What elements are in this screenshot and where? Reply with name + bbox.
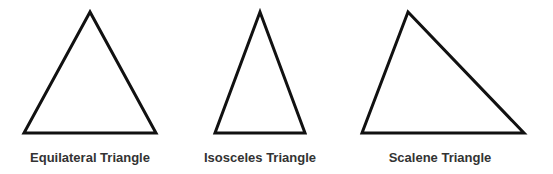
isosceles-triangle-shape (215, 12, 305, 133)
isosceles-triangle-label: Isosceles Triangle (204, 150, 316, 165)
scalene-triangle-label: Scalene Triangle (389, 150, 492, 165)
equilateral-triangle-label: Equilateral Triangle (30, 150, 150, 165)
equilateral-triangle-shape (24, 12, 156, 133)
triangles-diagram (0, 0, 553, 174)
scalene-triangle-shape (362, 12, 524, 133)
